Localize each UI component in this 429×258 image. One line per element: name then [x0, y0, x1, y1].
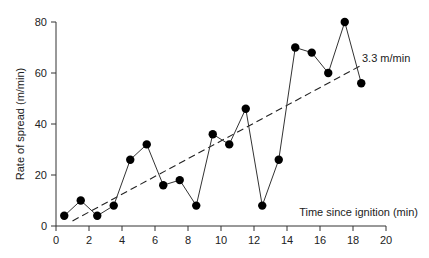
data-point-marker: [159, 181, 167, 189]
x-tick-label: 20: [380, 234, 392, 246]
y-axis-label: Rate of spread (m/min): [14, 68, 26, 180]
y-tick-label: 40: [35, 118, 47, 130]
x-axis-label: Time since ignition (min): [299, 206, 418, 218]
trend-dashed-line: [73, 65, 362, 221]
data-point-marker: [110, 201, 118, 209]
data-point-marker: [93, 212, 101, 220]
data-point-marker: [258, 201, 266, 209]
x-tick-label: 10: [215, 234, 227, 246]
data-point-marker: [225, 140, 233, 148]
x-tick-label: 12: [248, 234, 260, 246]
data-point-marker: [308, 48, 316, 56]
x-tick-label: 4: [119, 234, 125, 246]
x-tick-label: 6: [152, 234, 158, 246]
x-tick-label: 18: [347, 234, 359, 246]
data-point-marker: [341, 18, 349, 26]
data-point-marker: [126, 156, 134, 164]
x-tick-label: 14: [281, 234, 293, 246]
data-series: [60, 18, 365, 220]
data-point-marker: [77, 196, 85, 204]
data-point-marker: [291, 43, 299, 51]
chart: 02040608002468101214161820 Time since ig…: [0, 0, 429, 258]
y-tick-label: 20: [35, 169, 47, 181]
data-point-marker: [209, 130, 217, 138]
data-point-marker: [192, 201, 200, 209]
trend-annotation: 3.3 m/min: [362, 52, 410, 64]
data-point-marker: [324, 69, 332, 77]
x-tick-label: 2: [86, 234, 92, 246]
x-tick-label: 0: [53, 234, 59, 246]
series-line: [64, 22, 361, 216]
trend-line: [73, 65, 362, 221]
y-tick-label: 0: [41, 220, 47, 232]
y-tick-label: 80: [35, 16, 47, 28]
y-tick-label: 60: [35, 67, 47, 79]
data-point-marker: [176, 176, 184, 184]
data-point-marker: [357, 79, 365, 87]
data-point-marker: [275, 156, 283, 164]
x-tick-label: 8: [185, 234, 191, 246]
data-point-marker: [242, 105, 250, 113]
data-point-marker: [60, 212, 68, 220]
x-tick-label: 16: [314, 234, 326, 246]
data-point-marker: [143, 140, 151, 148]
